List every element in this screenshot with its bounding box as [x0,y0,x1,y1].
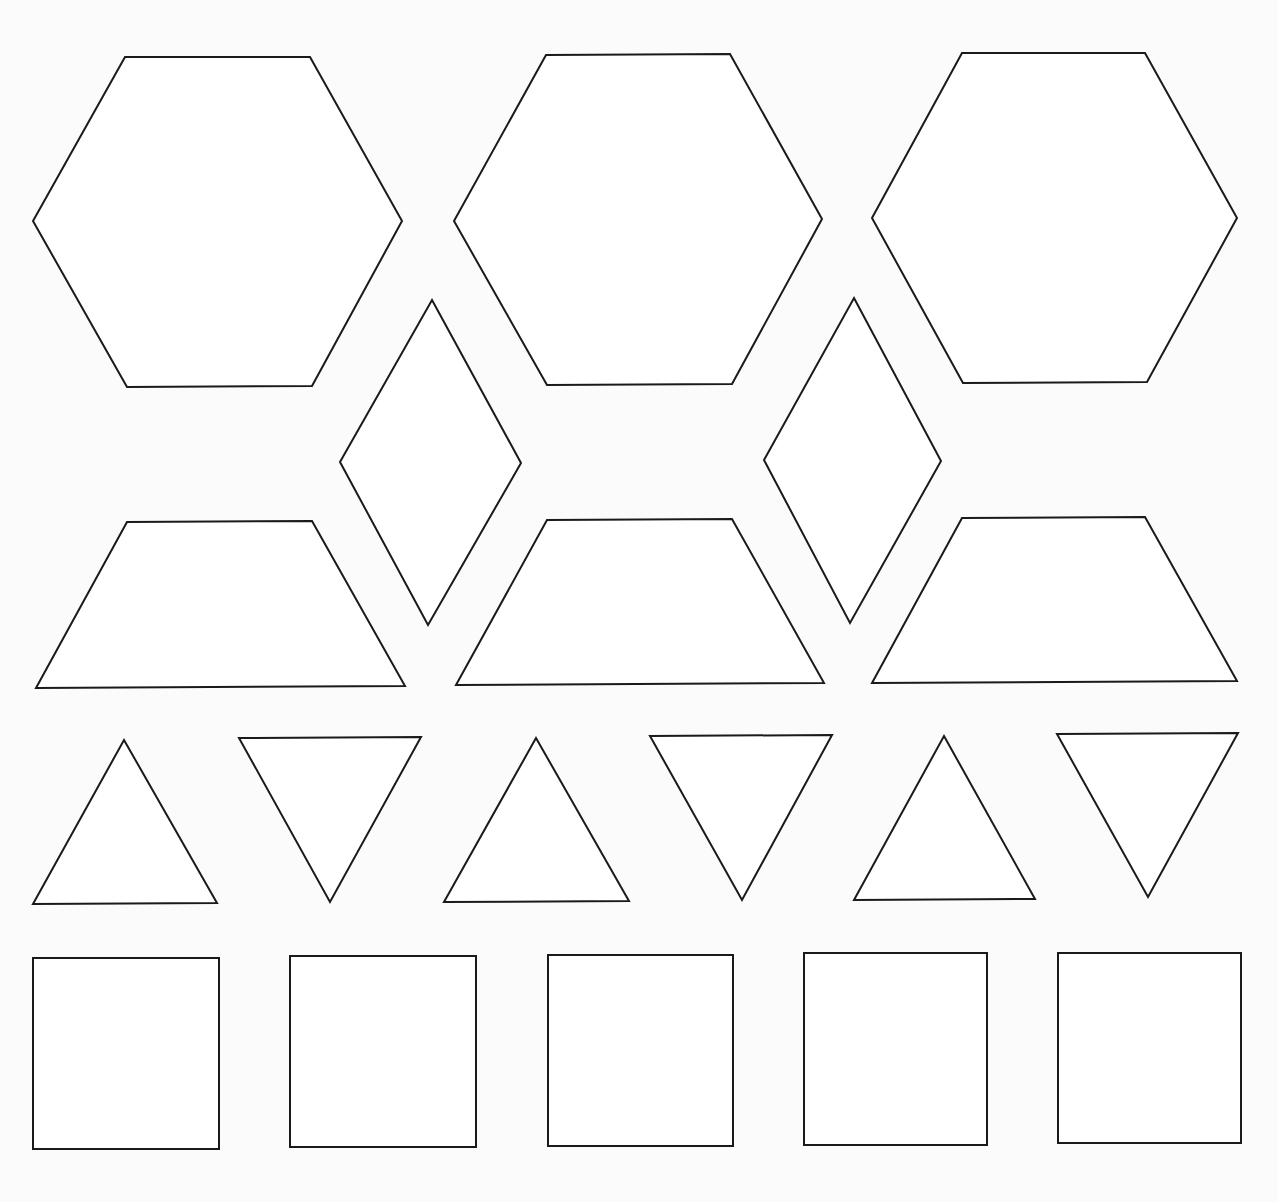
hexagon-3[interactable] [872,53,1237,383]
triangle-down-2[interactable] [650,735,832,900]
rhombus-1[interactable] [340,300,521,625]
triangle-up-1[interactable] [33,740,217,904]
square-1[interactable] [33,958,219,1149]
triangle-down-3[interactable] [1057,733,1238,897]
square-4[interactable] [804,953,987,1145]
triangle-down-1[interactable] [239,737,421,902]
triangle-up-2[interactable] [444,738,629,902]
trapezoid-group [36,517,1237,688]
hexagon-2[interactable] [454,54,822,385]
rhombus-2[interactable] [764,298,941,623]
hexagon-1[interactable] [33,57,402,387]
worksheet-page [0,0,1278,1202]
square-2[interactable] [290,956,476,1147]
triangle-group [33,733,1238,904]
pattern-block-shapes [0,0,1278,1202]
trapezoid-1[interactable] [36,521,405,688]
hexagon-group [33,53,1237,387]
square-5[interactable] [1058,953,1241,1143]
triangle-up-3[interactable] [854,736,1035,900]
square-group [33,953,1241,1149]
square-3[interactable] [548,955,733,1146]
trapezoid-2[interactable] [456,519,824,685]
trapezoid-3[interactable] [872,517,1237,683]
